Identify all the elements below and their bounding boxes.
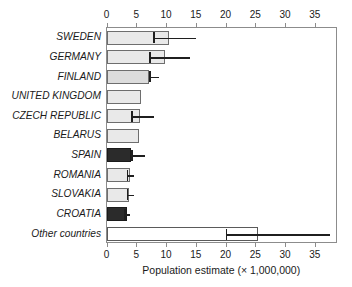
x-tick-label-top: 35 [309, 10, 320, 20]
bar [107, 70, 150, 84]
x-tick-label-bottom: 20 [220, 250, 231, 260]
x-tick-top [166, 23, 167, 27]
bar [107, 90, 142, 104]
category-label: FINLAND [0, 66, 101, 86]
x-tick-label-top: 15 [190, 10, 201, 20]
error-bar-line [226, 234, 330, 236]
x-tick-label-bottom: 0 [104, 250, 110, 260]
error-bar-cap-low [124, 209, 126, 220]
error-bar-cap-low [131, 150, 133, 161]
x-tick-label-top: 30 [279, 10, 290, 20]
x-tick-top [226, 23, 227, 27]
error-bar-line [153, 38, 196, 40]
bar-row [107, 107, 339, 127]
x-tick-label-top: 0 [104, 10, 110, 20]
error-bar-cap-low [226, 229, 228, 240]
bar-row [107, 165, 339, 185]
bar-row [107, 224, 339, 244]
x-tick-label-bottom: 5 [133, 250, 139, 260]
x-tick-top [136, 23, 137, 27]
error-bar-cap-low [127, 189, 129, 200]
category-axis-labels: SWEDENGERMANYFINLANDUNITED KINGDOMCZECH … [0, 27, 103, 243]
x-tick-top [315, 23, 316, 27]
bar [107, 129, 139, 143]
x-tick-label-top: 5 [133, 10, 139, 20]
x-tick-top [107, 23, 108, 27]
error-bar-cap-low [153, 32, 155, 43]
bar-row [107, 48, 339, 68]
category-label: SPAIN [0, 145, 101, 165]
x-tick-label-bottom: 35 [309, 250, 320, 260]
x-tick-top [196, 23, 197, 27]
bar-row [107, 146, 339, 166]
category-label: UNITED KINGDOM [0, 86, 101, 106]
bar [107, 188, 130, 202]
category-label: ROMANIA [0, 164, 101, 184]
category-label: SLOVAKIA [0, 184, 101, 204]
x-tick-label-top: 25 [250, 10, 261, 20]
bar-row [107, 205, 339, 225]
x-tick-label-bottom: 25 [250, 250, 261, 260]
error-bar-cap-low [149, 71, 151, 82]
x-tick-label-bottom: 10 [160, 250, 171, 260]
category-label: SWEDEN [0, 27, 101, 47]
bar-row [107, 87, 339, 107]
category-label: CROATIA [0, 204, 101, 224]
bar [107, 148, 132, 162]
bar-row [107, 185, 339, 205]
error-bar-cap-low [149, 52, 151, 63]
error-bar-line [149, 57, 189, 59]
category-label: BELARUS [0, 125, 101, 145]
error-bar-line [131, 116, 154, 118]
category-label: GERMANY [0, 47, 101, 67]
error-bar-cap-low [131, 111, 133, 122]
bar-row [107, 67, 339, 87]
x-tick-label-top: 10 [160, 10, 171, 20]
bar-row [107, 126, 339, 146]
error-bar-line [131, 155, 144, 157]
population-estimate-bar-chart: SWEDENGERMANYFINLANDUNITED KINGDOMCZECH … [0, 0, 352, 287]
category-label: CZECH REPUBLIC [0, 106, 101, 126]
x-tick-top [255, 23, 256, 27]
error-bar-cap-low [127, 170, 129, 181]
bar-row [107, 28, 339, 48]
x-tick-label-bottom: 15 [190, 250, 201, 260]
x-tick-top [285, 23, 286, 27]
x-tick-label-bottom: 30 [279, 250, 290, 260]
category-label: Other countries [0, 223, 101, 243]
plot-area: 05101520253035 05101520253035 [106, 27, 338, 243]
x-tick-label-top: 20 [220, 10, 231, 20]
x-axis-title: Population estimate (× 1,000,000) [106, 264, 338, 276]
